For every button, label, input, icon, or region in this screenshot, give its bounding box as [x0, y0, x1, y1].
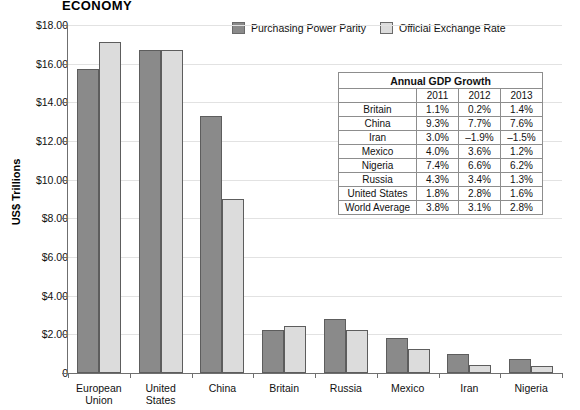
table-cell: 3.8%	[417, 201, 459, 215]
table-cell: 7.4%	[417, 159, 459, 173]
table-head: Annual GDP Growth 2011 2012 2013	[339, 73, 543, 103]
legend-label-oer: Official Exchange Rate	[399, 22, 506, 34]
table-cell: 6.6%	[459, 159, 501, 173]
x-tick-mark	[439, 373, 440, 378]
table-col-2012: 2012	[459, 89, 501, 103]
table-row: Britain1.1%0.2%1.4%	[339, 103, 543, 117]
table-cell: 3.1%	[459, 201, 501, 215]
bar	[222, 199, 244, 373]
x-category-label: Britain	[253, 382, 315, 394]
table-header-row: 2011 2012 2013	[339, 89, 543, 103]
bar	[200, 116, 222, 373]
bar	[99, 42, 121, 373]
x-category-label: China	[192, 382, 254, 394]
table-row-label: Russia	[339, 173, 417, 187]
bar	[262, 330, 284, 374]
legend-swatch-ppp	[232, 22, 245, 34]
table-cell: 7.7%	[459, 117, 501, 131]
table-cell: 1.8%	[417, 187, 459, 201]
y-tick-label: 0	[16, 367, 68, 379]
legend-item-ppp: Purchasing Power Parity	[232, 22, 366, 34]
table-cell: –1.9%	[459, 131, 501, 145]
y-tick-label: $14.00	[16, 96, 68, 108]
legend-item-oer: Official Exchange Rate	[380, 22, 506, 34]
table-cell: 4.3%	[417, 173, 459, 187]
table-cell: 3.4%	[459, 173, 501, 187]
x-category-line: Union	[68, 394, 130, 406]
table-row-label: World Average	[339, 201, 417, 215]
table-cell: 7.6%	[501, 117, 543, 131]
chart-root: ECONOMY Purchasing Power Parity Official…	[0, 0, 580, 410]
table-row-label: Iran	[339, 131, 417, 145]
table-cell: 1.1%	[417, 103, 459, 117]
bar	[469, 365, 491, 373]
y-tick-label: $6.00	[16, 251, 68, 263]
x-tick-mark	[377, 373, 378, 378]
table-row: Nigeria7.4%6.6%6.2%	[339, 159, 543, 173]
table-row: World Average3.8%3.1%2.8%	[339, 201, 543, 215]
legend-label-ppp: Purchasing Power Parity	[251, 22, 366, 34]
y-axis-title: US$ Trillions	[10, 132, 22, 252]
x-category-line: Mexico	[377, 382, 439, 394]
table-row-label: China	[339, 117, 417, 131]
y-tick-label: $12.00	[16, 135, 68, 147]
table-cell: 3.6%	[459, 145, 501, 159]
x-category-label: Russia	[315, 382, 377, 394]
x-category-line: Iran	[439, 382, 501, 394]
x-category-line: Russia	[315, 382, 377, 394]
bar	[324, 319, 346, 373]
y-tick-label: $2.00	[16, 328, 68, 340]
table-row-label: Nigeria	[339, 159, 417, 173]
table-corner-cell	[339, 89, 417, 103]
table-cell: 2.8%	[459, 187, 501, 201]
x-category-line: United	[130, 382, 192, 394]
table-row: China9.3%7.7%7.6%	[339, 117, 543, 131]
table-row-label: United States	[339, 187, 417, 201]
table-row: Iran3.0%–1.9%–1.5%	[339, 131, 543, 145]
chart-legend: Purchasing Power Parity Official Exchang…	[232, 22, 506, 34]
legend-swatch-oer	[380, 22, 393, 34]
y-tick-label: $8.00	[16, 212, 68, 224]
y-tick-label: $18.00	[16, 19, 68, 31]
x-category-line: Britain	[253, 382, 315, 394]
table-title-row: Annual GDP Growth	[339, 73, 543, 89]
x-category-line: States	[130, 394, 192, 406]
y-axis-line	[67, 25, 68, 374]
bar	[77, 69, 99, 373]
table-col-2013: 2013	[501, 89, 543, 103]
x-category-line: China	[192, 382, 254, 394]
x-category-line: European	[68, 382, 130, 394]
x-tick-mark	[68, 373, 69, 378]
table-row: Russia4.3%3.4%1.3%	[339, 173, 543, 187]
bar	[161, 50, 183, 373]
gridline	[68, 25, 562, 26]
table-cell: 1.3%	[501, 173, 543, 187]
bar	[386, 338, 408, 373]
gdp-growth-table: Annual GDP Growth 2011 2012 2013 Britain…	[338, 72, 543, 215]
x-tick-mark	[500, 373, 501, 378]
table-row: United States1.8%2.8%1.6%	[339, 187, 543, 201]
x-category-label: Mexico	[377, 382, 439, 394]
bar	[447, 354, 469, 373]
table-cell: 1.4%	[501, 103, 543, 117]
x-tick-mark	[315, 373, 316, 378]
x-category-label: UnitedStates	[130, 382, 192, 406]
y-tick-label: $4.00	[16, 290, 68, 302]
x-tick-mark	[130, 373, 131, 378]
table-row: Mexico4.0%3.6%1.2%	[339, 145, 543, 159]
table-title: Annual GDP Growth	[339, 73, 543, 89]
x-tick-mark	[562, 373, 563, 378]
bar	[531, 366, 553, 373]
bar	[509, 359, 531, 373]
y-tick-label: $10.00	[16, 174, 68, 186]
x-tick-mark	[253, 373, 254, 378]
table-body: Britain1.1%0.2%1.4%China9.3%7.7%7.6%Iran…	[339, 103, 543, 215]
x-category-label: Iran	[439, 382, 501, 394]
bar	[346, 330, 368, 374]
table-col-2011: 2011	[417, 89, 459, 103]
bar	[284, 326, 306, 373]
table-cell: 4.0%	[417, 145, 459, 159]
y-tick-label: $16.00	[16, 58, 68, 70]
table-row-label: Mexico	[339, 145, 417, 159]
table-cell: –1.5%	[501, 131, 543, 145]
